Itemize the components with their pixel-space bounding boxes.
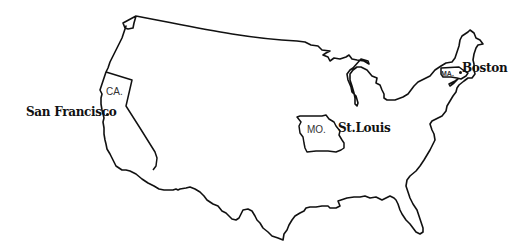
us-outline-svg [0,0,528,252]
state-label-ma: MA. [441,70,454,77]
city-label-boston: Boston [462,61,507,75]
us-outline [100,16,483,240]
us-map: CA. MO. MA. San Francisco St.Louis Bosto… [0,0,528,252]
state-label-ca: CA. [106,86,123,97]
long-island [449,79,458,86]
city-label-san-francisco: San Francisco [26,105,117,119]
city-label-st-louis: St.Louis [338,121,390,135]
state-label-mo: MO. [307,124,326,135]
